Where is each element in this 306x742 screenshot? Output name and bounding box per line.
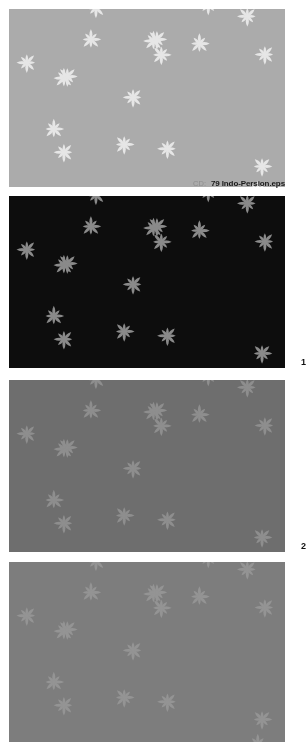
pattern-canvas-1: [9, 196, 285, 368]
pattern-canvas-2: [9, 380, 285, 552]
swatch-caption: CD: 79 Indo-Persion.eps: [85, 177, 285, 189]
pattern-canvas-3: [9, 562, 285, 742]
pattern-canvas-0: [9, 9, 285, 187]
caption-filename: 79 Indo-Persion.eps: [211, 179, 285, 188]
panel-number-1: 1: [288, 357, 306, 367]
pattern-swatch-2[interactable]: [9, 380, 285, 552]
pattern-swatch-3[interactable]: [9, 562, 285, 742]
pattern-swatch-0[interactable]: [9, 9, 285, 187]
pattern-swatch-1[interactable]: [9, 196, 285, 368]
pattern-swatch-sheet: CD: 79 Indo-Persion.eps 1 2: [0, 0, 306, 742]
caption-cd-prefix: CD:: [193, 179, 207, 188]
panel-number-2: 2: [288, 541, 306, 551]
